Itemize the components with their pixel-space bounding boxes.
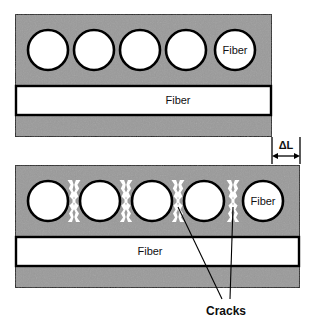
bottom-fiber-band-label: Fiber xyxy=(137,245,162,257)
top-longitudinal-fiber-band: Fiber xyxy=(16,86,271,115)
diagram-svg: Fiber Fiber ΔL xyxy=(0,0,313,329)
top-panel: Fiber Fiber xyxy=(15,14,272,137)
fiber-circle xyxy=(28,181,68,221)
fiber-circle xyxy=(132,181,172,221)
bottom-longitudinal-fiber-band: Fiber xyxy=(16,237,299,266)
fiber-matrix-crack-diagram: Fiber Fiber ΔL xyxy=(0,0,313,329)
fiber-circle xyxy=(184,181,224,221)
delta-l-arrowhead-left xyxy=(272,153,278,159)
cracks-label: Cracks xyxy=(206,304,246,318)
delta-l-annotation: ΔL xyxy=(272,137,300,164)
fiber-circle xyxy=(120,30,160,70)
fiber-circle xyxy=(74,30,114,70)
top-transverse-fiber-row: Fiber xyxy=(28,30,255,70)
delta-l-arrowhead-right xyxy=(294,153,300,159)
bottom-panel: Fiber Fiber xyxy=(15,165,300,288)
top-fiber-circle-label: Fiber xyxy=(222,44,247,56)
fiber-circle xyxy=(80,181,120,221)
bottom-fiber-circle-label: Fiber xyxy=(250,195,275,207)
fiber-circle xyxy=(166,30,206,70)
fiber-circle xyxy=(28,30,68,70)
delta-l-label: ΔL xyxy=(279,139,294,151)
top-fiber-band-label: Fiber xyxy=(165,94,190,106)
fiber-band-rect xyxy=(16,86,271,115)
